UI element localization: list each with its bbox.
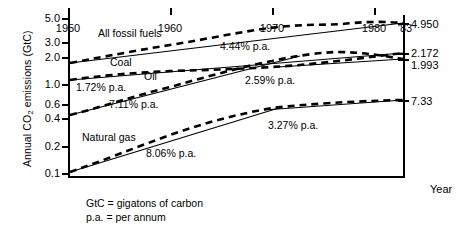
right-label-all-fossil-fuels: 4.950 <box>411 19 439 30</box>
growth-rate-oil-early: 7.11% p.a. <box>109 99 158 110</box>
growth-rate-oil-late: 2.59% p.a. <box>245 75 295 86</box>
series-label-oil: Oil <box>144 71 157 82</box>
y-tick-label-0.4: 0.4 <box>45 113 60 124</box>
x-tick-1960 <box>170 8 172 15</box>
chart-figure: Annual CO2 emissions (GtC) 5.0 3.0 2.0 1… <box>0 0 468 240</box>
growth-rate-natural-gas-late: 3.27% p.a. <box>268 120 318 131</box>
right-label-natural-gas: 7.33 <box>411 96 432 107</box>
y-axis-title-post: emissions (GtC) <box>21 30 33 110</box>
growth-rate-coal: 1.72% p.a. <box>76 82 126 93</box>
x-tick-1980 <box>374 8 376 15</box>
growth-rate-natural-gas-early: 8.06% p.a. <box>146 148 196 159</box>
footnote-gtc: GtC = gigatons of carbon <box>86 196 203 210</box>
trend-line-oil-late <box>278 59 403 67</box>
y-tick-label-2.0: 2.0 <box>45 52 60 63</box>
x-tick-1970 <box>272 8 274 15</box>
trend-line-natural-gas-late <box>264 100 403 110</box>
series-label-coal: Coal <box>110 57 132 68</box>
y-tick-label-1.0: 1.0 <box>45 79 60 90</box>
series-label-all-fossil-fuels: All fossil fuels <box>98 28 162 39</box>
y-axis-title-subscript: 2 <box>26 110 35 115</box>
y-axis-title-pre: Annual CO <box>21 115 33 167</box>
growth-rate-all-fossil-fuels: 4.44% p.a. <box>220 41 270 52</box>
y-tick-label-0.2: 0.2 <box>45 141 60 152</box>
right-label-oil: 1.993 <box>411 60 439 71</box>
right-label-coal: 2.172 <box>411 48 439 59</box>
y-axis-title: Annual CO2 emissions (GtC) <box>21 14 35 184</box>
y-tick-label-3.0: 3.0 <box>45 37 60 48</box>
y-tick-label-0.1: 0.1 <box>45 168 60 179</box>
y-tick-label-0.6: 0.6 <box>45 99 60 110</box>
x-axis-title: Year <box>430 183 452 195</box>
plot-area: 5.0 3.0 2.0 1.0 0.6 0.4 0.2 0.1 1950 196… <box>68 15 405 178</box>
footnotes: GtC = gigatons of carbon p.a. = per annu… <box>86 196 203 224</box>
series-label-natural-gas: Natural gas <box>82 132 136 143</box>
footnote-pa: p.a. = per annum <box>86 210 203 224</box>
x-tick-1950 <box>68 8 70 15</box>
